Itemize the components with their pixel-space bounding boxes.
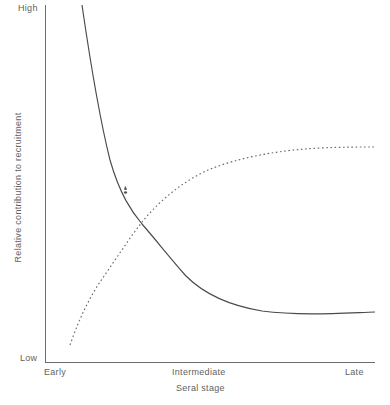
series-declining-contribution — [82, 5, 375, 314]
y-axis-tick-high: High — [18, 4, 38, 13]
chart-plot-svg — [0, 0, 390, 405]
x-axis-tick-early: Early — [44, 368, 66, 377]
chart-figure: High Low Early Intermediate Late Seral s… — [0, 0, 390, 405]
x-axis-title: Seral stage — [176, 384, 225, 393]
x-axis-tick-late: Late — [345, 368, 364, 377]
y-axis-tick-low: Low — [20, 354, 37, 363]
x-axis-tick-intermediate: Intermediate — [172, 368, 226, 377]
y-axis-title: Relative contribution to recruitment — [14, 88, 23, 288]
ink-speck-artifact — [124, 187, 127, 194]
